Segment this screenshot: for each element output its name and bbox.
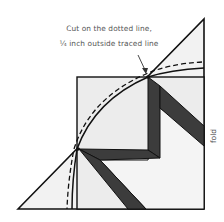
- fold-label: fold: [209, 122, 219, 150]
- dark-band-vertical: [148, 77, 160, 158]
- cut-instruction: Cut on the dotted line, ¼ inch outside t…: [44, 21, 174, 51]
- cut-instruction-line1: Cut on the dotted line,: [44, 21, 174, 36]
- cut-instruction-line2: ¼ inch outside traced line: [44, 36, 174, 51]
